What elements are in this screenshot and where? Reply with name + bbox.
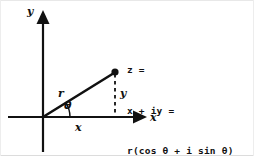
angle-theta-label: θ	[64, 100, 72, 111]
radius-vector-line	[43, 73, 114, 117]
equation-line-3: r(cos θ + i sin θ)	[127, 144, 234, 156]
equation-block: z = x + iy = r(cos θ + i sin θ)	[127, 36, 234, 156]
y-axis-arrowhead	[37, 10, 50, 24]
complex-plane-figure: y x r θ x y z = x + iy = r(cos θ + i sin…	[0, 0, 254, 156]
y-axis-label: y	[27, 6, 33, 17]
equation-line-1: z =	[127, 63, 234, 77]
y-component-label: y	[120, 88, 126, 99]
x-component-label: x	[75, 122, 82, 133]
equation-line-2: x + iy =	[127, 104, 234, 118]
radius-r-label: r	[58, 88, 64, 99]
